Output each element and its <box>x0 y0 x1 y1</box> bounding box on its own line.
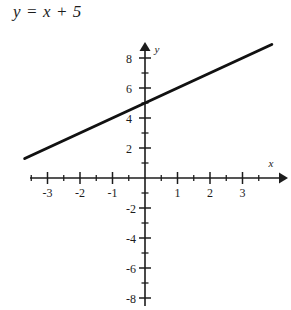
y-tick-label: 6 <box>126 82 132 96</box>
x-tick-label: 3 <box>240 186 246 200</box>
y-tick-label: -2 <box>126 202 136 216</box>
y-axis-label: y <box>154 43 160 55</box>
y-tick-label: -6 <box>126 262 136 276</box>
x-tick-label: -3 <box>43 186 53 200</box>
function-line-plot <box>25 45 272 159</box>
y-axis-tick-labels: 8 6 4 2 -2 -4 -6 -8 <box>126 52 136 306</box>
y-axis-arrow-icon <box>140 42 151 51</box>
x-tick-label: 1 <box>175 186 181 200</box>
y-tick-label: -8 <box>126 292 136 306</box>
y-tick-label: -4 <box>126 232 136 246</box>
x-tick-label: -2 <box>75 186 85 200</box>
y-tick-label: 8 <box>126 52 132 66</box>
x-tick-label: 2 <box>207 186 213 200</box>
cartesian-plot: x y <box>0 0 291 310</box>
x-axis-arrow-icon <box>279 173 288 184</box>
x-axis-label: x <box>268 157 274 169</box>
y-tick-label: 4 <box>126 112 132 126</box>
plot-svg: x y <box>0 0 291 310</box>
x-tick-label: -1 <box>108 186 118 200</box>
y-tick-label: 2 <box>126 142 132 156</box>
graph-figure: y = x + 5 x y <box>0 0 291 310</box>
